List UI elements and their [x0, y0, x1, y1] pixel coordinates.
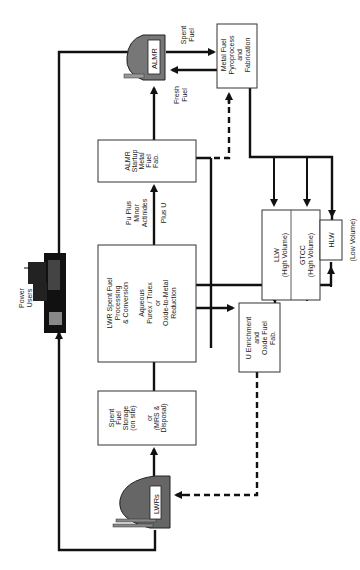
svg-text:or: or	[146, 414, 153, 421]
lwrs-label: LWRs	[152, 494, 161, 514]
svg-text:Minor: Minor	[133, 204, 140, 222]
almr-reactor-icon: ALMR	[124, 35, 165, 80]
svg-text:Reduction: Reduction	[170, 287, 177, 319]
spent-fuel-edge-label: Spent Fuel	[180, 26, 195, 44]
svg-text:ALMR: ALMR	[124, 151, 131, 170]
metal-fuel-pyroprocess-box: Metal Fuel Pyroprocess and Fabrication	[217, 24, 257, 88]
plus-u-label: Plus U	[160, 203, 167, 224]
svg-text:Fuel: Fuel	[145, 154, 152, 168]
svg-text:Processing: Processing	[114, 286, 122, 321]
svg-text:LLW: LLW	[273, 248, 280, 262]
svg-text:Oxide Fuel: Oxide Fuel	[261, 321, 268, 355]
metal-fuel-to-waste-line	[250, 88, 332, 222]
svg-text:Fabrication: Fabrication	[244, 38, 251, 73]
almr-startup-fuel-fab-box: ALMR Startup Metal Fuel Fab.	[98, 140, 196, 182]
svg-text:Pu Plus: Pu Plus	[125, 200, 132, 225]
lwr-spent-fuel-processing-box: LWR Spent Fuel Processing & Conversion A…	[98, 245, 196, 362]
pu-plus-actinides-label: Pu Plus Minor Actinides	[125, 198, 148, 227]
svg-text:Fuel: Fuel	[181, 88, 188, 102]
svg-text:Metal: Metal	[138, 152, 145, 170]
svg-text:U Enrichment: U Enrichment	[245, 317, 252, 359]
svg-text:Fresh: Fresh	[173, 86, 180, 104]
svg-text:Disposal): Disposal)	[160, 403, 168, 432]
almr-label: ALMR	[150, 48, 159, 69]
svg-text:& Conversion: & Conversion	[122, 282, 129, 324]
lwrs-reactor-icon: LWRs	[113, 476, 170, 528]
fresh-fuel-edge-label: Fresh Fuel	[173, 86, 188, 104]
svg-text:Actinides: Actinides	[141, 198, 148, 227]
svg-text:or: or	[154, 299, 161, 306]
svg-text:LWR Spent Fuel: LWR Spent Fuel	[106, 277, 114, 328]
fuel-cycle-diagram: ALMR Metal Fuel Pyroprocess and Fabricat…	[0, 0, 360, 570]
svg-text:Fuel: Fuel	[188, 28, 195, 42]
power-users-city-icon: Power Users	[18, 253, 66, 333]
svg-text:HLW: HLW	[328, 232, 335, 247]
svg-text:Spent: Spent	[180, 26, 188, 44]
svg-text:Fab.: Fab.	[269, 331, 276, 345]
svg-text:Users: Users	[26, 288, 33, 307]
svg-text:Purex / Truex: Purex / Truex	[146, 282, 153, 324]
u-enrichment-box: U Enrichment and Oxide Fuel Fab.	[239, 303, 280, 372]
svg-text:Fuel: Fuel	[115, 411, 122, 425]
svg-text:Metal Fuel: Metal Fuel	[220, 38, 227, 71]
svg-text:(High Volume): (High Volume)	[281, 233, 289, 277]
svg-text:Aqueous: Aqueous	[138, 289, 146, 317]
svg-text:and: and	[253, 332, 260, 344]
hlw-low-volume-note: (Low Volume)	[349, 219, 357, 262]
svg-text:(on site): (on site)	[129, 405, 137, 430]
svg-text:Oxide-to-Metal: Oxide-to-Metal	[162, 280, 169, 326]
dashed-to-metal-fuel	[214, 98, 229, 158]
svg-text:Pyroprocess: Pyroprocess	[228, 35, 236, 74]
svg-text:GTCC: GTCC	[299, 245, 306, 265]
llw-gtcc-box: LLW (High Volume) GTCC (High Volume)	[262, 210, 320, 300]
svg-text:and: and	[236, 49, 243, 61]
dashed-enrichment-to-lwrs	[186, 372, 257, 495]
spent-fuel-storage-box: Spent Fuel Storage (on site) or (MRS & D…	[98, 391, 196, 445]
svg-text:Fab.: Fab.	[152, 154, 159, 168]
svg-text:Power: Power	[18, 287, 25, 308]
hlw-box: HLW (Low Volume)	[320, 219, 357, 262]
svg-text:(High Volume): (High Volume)	[307, 233, 315, 277]
